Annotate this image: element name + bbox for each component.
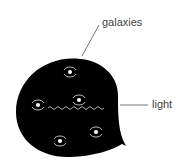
balloon-diagram [0,0,185,165]
galaxies-label: galaxies [102,16,142,28]
galaxies-leader-line [82,25,99,56]
light-label: light [152,98,172,110]
